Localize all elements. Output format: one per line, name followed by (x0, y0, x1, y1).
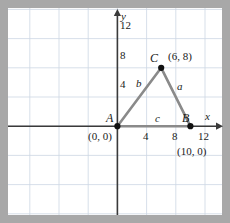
side-label-c: c (155, 113, 160, 124)
vertex-coord-c: (6, 8) (168, 51, 192, 62)
y-tick-label-4: 4 (120, 79, 126, 90)
vertex-label-b: B (182, 112, 189, 124)
x-tick-label-12: 12 (198, 131, 209, 142)
x-tick-label-8: 8 (172, 131, 178, 142)
grid-lines (8, 8, 222, 215)
side-label-a: a (177, 81, 183, 92)
vertex-label-a: A (106, 112, 113, 124)
y-axis-arrowhead (114, 9, 121, 16)
y-tick-label-12: 12 (120, 20, 131, 31)
y-tick-label-8: 8 (120, 50, 126, 61)
x-tick-label-4: 4 (143, 131, 149, 142)
x-axis-label: x (205, 111, 210, 122)
vertex-coord-b: (10, 0) (177, 146, 206, 157)
figure-graphics (0, 0, 230, 223)
vertex-coord-a: (0, 0) (88, 131, 112, 142)
vertex-dot-a (114, 123, 120, 129)
coordinate-plane-figure: y x 12 8 4 4 8 12 A B C (0, 0) (10, 0) (… (0, 0, 230, 223)
side-label-b: b (136, 78, 142, 89)
vertex-dot-c (158, 65, 164, 71)
x-axis-arrowhead (216, 123, 223, 130)
vertex-label-c: C (150, 52, 158, 64)
